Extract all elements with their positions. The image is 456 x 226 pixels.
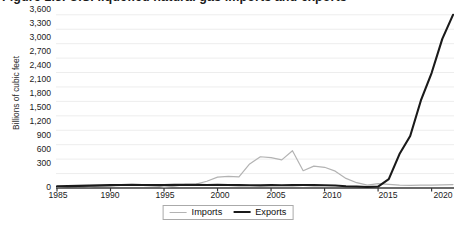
x-tick-label: 1995 bbox=[155, 190, 174, 200]
chart-title-clip: Figure 1.3. U.S. liquefied natural gas i… bbox=[0, 0, 456, 5]
legend-item-exports[interactable]: Exports bbox=[233, 207, 286, 217]
legend-swatch-exports bbox=[233, 211, 250, 213]
x-tick-label: 2020 bbox=[433, 190, 452, 200]
legend-label-imports: Imports bbox=[192, 207, 223, 217]
y-tick-label: 2,400 bbox=[5, 61, 51, 70]
x-tick-label: 2005 bbox=[266, 190, 285, 200]
y-tick-label: 3,600 bbox=[5, 5, 51, 14]
plot-svg bbox=[56, 10, 454, 192]
gridlines bbox=[56, 15, 454, 174]
chart-legend: Imports Exports bbox=[163, 205, 294, 220]
y-tick-label: 1,200 bbox=[5, 117, 51, 126]
chart-figure: Figure 1.3. U.S. liquefied natural gas i… bbox=[0, 0, 456, 226]
y-tick-label: 1,500 bbox=[5, 103, 51, 112]
y-tick-label: 1,800 bbox=[5, 89, 51, 98]
x-tick-label: 1985 bbox=[48, 190, 67, 200]
x-tick-label: 1990 bbox=[100, 190, 119, 200]
x-tick-label: 2010 bbox=[322, 190, 341, 200]
y-tick-label: 600 bbox=[5, 145, 51, 154]
x-axis-tick-labels: 1985 1990 1995 2000 2005 2010 2015 2020 bbox=[0, 190, 456, 204]
x-tick-label: 2015 bbox=[378, 190, 397, 200]
legend-label-exports: Exports bbox=[255, 207, 286, 217]
x-tick-label: 2000 bbox=[210, 190, 229, 200]
y-tick-label: 3,300 bbox=[5, 19, 51, 28]
legend-swatch-imports bbox=[170, 212, 187, 213]
chart-title: Figure 1.3. U.S. liquefied natural gas i… bbox=[2, 0, 347, 4]
y-tick-label: 3,000 bbox=[5, 33, 51, 42]
y-tick-label: 2,700 bbox=[5, 47, 51, 56]
legend-item-imports[interactable]: Imports bbox=[170, 207, 223, 217]
y-tick-label: 900 bbox=[5, 131, 51, 140]
y-tick-label: 2,100 bbox=[5, 75, 51, 84]
y-tick-label: 300 bbox=[5, 159, 51, 168]
plot-area bbox=[56, 10, 454, 188]
